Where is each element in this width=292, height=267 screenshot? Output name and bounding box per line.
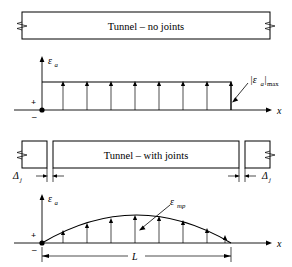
x-axis-label-parabolic: x <box>276 238 282 249</box>
x-axis-arrowhead-parabolic <box>266 241 272 246</box>
joint-gap-label-right: Δ <box>261 170 268 181</box>
y-axis-label-subscript-uniform: a <box>55 61 59 68</box>
annotation-leader-uniform <box>234 83 248 100</box>
origin-dot-uniform <box>39 107 44 112</box>
panel-tunnel-with-joints: Tunnel – with joints Δ j <box>12 141 275 183</box>
plus-sign-uniform: + <box>31 97 36 107</box>
joint-gap-label-left-subscript: j <box>19 176 22 183</box>
panel-parabolic-strain: ε a x + – <box>14 193 282 262</box>
mid-point-strain-subscript: mp <box>177 202 186 209</box>
y-axis-label-parabolic: ε <box>48 193 52 204</box>
panel-uniform-strain: ε a x + – <box>14 55 282 121</box>
annotation-arrowhead-uniform <box>232 97 238 102</box>
minus-sign-uniform: – <box>31 111 37 121</box>
y-axis-arrowhead-parabolic <box>40 194 45 200</box>
tunnel-with-joints-title: Tunnel – with joints <box>104 150 189 161</box>
max-strain-symbol: |ε <box>250 74 257 85</box>
joint-gap-dimension-left: Δ j <box>12 168 64 183</box>
span-dimension-L: L <box>42 247 231 262</box>
tunnel-segment-right <box>245 141 270 168</box>
uniform-strain-profile <box>42 82 231 110</box>
y-axis-label-subscript-parabolic: a <box>55 199 59 206</box>
strain-arrows-uniform <box>61 81 233 110</box>
mid-point-strain-symbol: ε <box>170 196 174 207</box>
joint-gap-label-left: Δ <box>12 170 19 181</box>
y-axis-label-uniform: ε <box>48 55 52 66</box>
max-strain-subscript: max <box>267 80 279 87</box>
x-axis-arrowhead-uniform <box>266 108 272 113</box>
minus-sign-parabolic: – <box>31 244 37 254</box>
annotation-leader-parabolic <box>142 205 170 228</box>
plus-sign-parabolic: + <box>31 230 36 240</box>
figure-canvas: Tunnel – no joints ε a x + – <box>0 0 292 267</box>
y-axis-arrowhead-uniform <box>40 56 45 62</box>
span-length-label: L <box>131 251 138 262</box>
joint-gap-label-right-subscript: j <box>268 176 271 183</box>
tunnel-no-joints-title: Tunnel – no joints <box>108 21 184 32</box>
max-strain-annotation: |ε a | max <box>250 74 279 87</box>
mid-point-strain-annotation: ε mp <box>170 196 186 209</box>
x-axis-label-uniform: x <box>276 105 282 116</box>
panel-tunnel-no-joints: Tunnel – no joints <box>17 12 275 39</box>
tunnel-strain-figure: Tunnel – no joints ε a x + – <box>0 0 292 267</box>
joint-gap-dimension-right: Δ j <box>228 168 271 183</box>
